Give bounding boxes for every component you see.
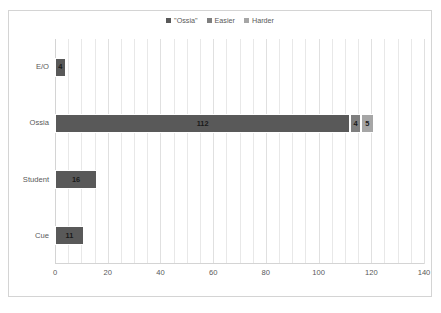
x-axis-label: 140 xyxy=(418,269,431,277)
x-axis-tick-labels: 020406080100120140 xyxy=(55,267,424,279)
bar-segment[interactable]: 16 xyxy=(55,170,97,189)
bar-value-label: 16 xyxy=(72,176,80,183)
legend-entry-easier[interactable]: Easier xyxy=(207,17,235,24)
y-axis-label: Cue xyxy=(35,232,49,240)
legend-swatch-icon xyxy=(244,18,249,23)
bar-value-label: 4 xyxy=(58,63,62,70)
chart-legend: "Ossia" Easier Harder xyxy=(9,17,431,24)
legend-entry-ossia[interactable]: "Ossia" xyxy=(166,17,197,24)
legend-label: "Ossia" xyxy=(174,17,197,24)
x-axis-label: 100 xyxy=(312,269,325,277)
x-axis-label: 20 xyxy=(103,269,111,277)
bar-segment[interactable]: 4 xyxy=(55,58,66,77)
legend-swatch-icon xyxy=(166,18,171,23)
y-axis-category-labels: E/OOssiaStudentCue xyxy=(9,39,52,264)
bar-segment[interactable]: 4 xyxy=(350,114,361,133)
chart-frame: "Ossia" Easier Harder E/OOssiaStudentCue… xyxy=(8,10,432,297)
bar-row: 4 xyxy=(55,58,424,77)
bar-row: 11 xyxy=(55,226,424,245)
bar-segment[interactable]: 11 xyxy=(55,226,84,245)
x-axis-label: 40 xyxy=(156,269,164,277)
bar-segment[interactable]: 5 xyxy=(361,114,374,133)
x-axis-line xyxy=(55,263,424,264)
y-axis-label: Student xyxy=(23,176,49,184)
gridline xyxy=(424,39,425,264)
bar-value-label: 4 xyxy=(353,120,357,127)
bar-value-label: 5 xyxy=(365,120,369,127)
x-axis-label: 120 xyxy=(365,269,378,277)
legend-label: Easier xyxy=(215,17,235,24)
legend-entry-harder[interactable]: Harder xyxy=(244,17,274,24)
x-axis-label: 0 xyxy=(53,269,57,277)
bar-row: 11245 xyxy=(55,114,424,133)
legend-swatch-icon xyxy=(207,18,212,23)
y-axis-label: Ossia xyxy=(30,120,49,128)
plot-area: 4112451611 xyxy=(55,39,424,264)
bar-row: 16 xyxy=(55,170,424,189)
y-axis-label: E/O xyxy=(36,63,49,71)
bar-value-label: 112 xyxy=(197,120,209,127)
x-axis-label: 60 xyxy=(209,269,217,277)
x-axis-label: 80 xyxy=(262,269,270,277)
legend-label: Harder xyxy=(252,17,274,24)
bar-segment[interactable]: 112 xyxy=(55,114,350,133)
bar-value-label: 11 xyxy=(66,232,74,239)
bar-series-group: 4112451611 xyxy=(55,39,424,264)
